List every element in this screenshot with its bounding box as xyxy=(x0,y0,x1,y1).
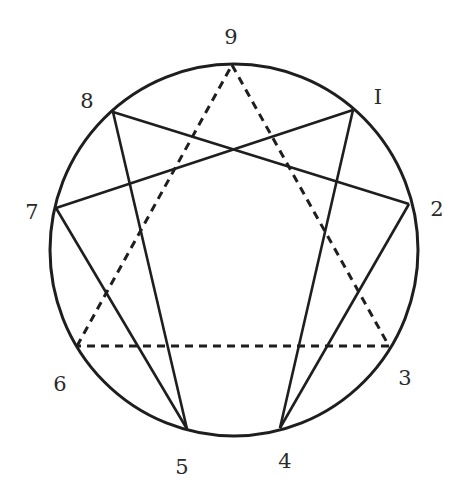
point-label-3: 3 xyxy=(398,366,411,390)
dashed-line-9-3 xyxy=(232,65,389,346)
solid-line-8-5 xyxy=(113,112,187,429)
triangle-lines xyxy=(77,65,389,346)
solid-line-4-2 xyxy=(280,204,409,428)
solid-line-7-1 xyxy=(56,110,353,208)
dashed-line-6-9 xyxy=(77,65,232,346)
solid-line-2-8 xyxy=(113,112,409,204)
point-label-8: 8 xyxy=(80,89,93,113)
point-label-7: 7 xyxy=(25,200,38,224)
point-label-5: 5 xyxy=(175,455,188,479)
hexad-lines xyxy=(56,110,409,429)
point-label-4: 4 xyxy=(278,449,291,473)
solid-line-1-4 xyxy=(280,110,353,428)
point-label-2: 2 xyxy=(430,197,443,221)
outer-circle xyxy=(50,64,418,436)
enneagram-diagram: 9I2345678 xyxy=(0,0,465,493)
point-label-6: 6 xyxy=(53,372,66,396)
point-label-9: 9 xyxy=(224,25,237,49)
point-label-1: I xyxy=(374,85,382,109)
